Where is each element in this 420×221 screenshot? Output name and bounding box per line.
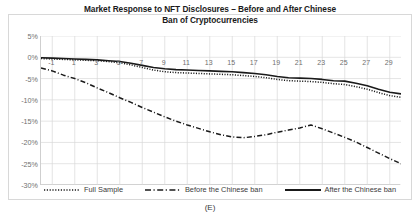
legend-label-before-ban: Before the Chinese ban: [185, 185, 263, 194]
x-tick-label: 23: [317, 59, 325, 66]
x-tick-label: 7: [139, 59, 143, 66]
x-tick-label: 19: [272, 59, 280, 66]
legend-swatch-dash-dot: [145, 186, 181, 194]
x-tick-label: 21: [295, 59, 303, 66]
x-tick-label: 27: [362, 59, 370, 66]
x-tick-label: 5: [117, 59, 121, 66]
y-tick-label: -20%: [4, 138, 38, 147]
x-tick-label: 29: [385, 59, 393, 66]
legend-label-after-ban: After the Chinese ban: [325, 185, 397, 194]
x-tick-label: 25: [340, 59, 348, 66]
legend-label-full-sample: Full Sample: [84, 185, 123, 194]
y-tick-label: -30%: [4, 181, 38, 190]
chart-title: Market Response to NFT Disclosures – Bef…: [40, 4, 380, 25]
figure-caption: (E): [0, 203, 420, 212]
x-tick-label: 11: [183, 59, 190, 66]
legend-swatch-solid: [285, 186, 321, 194]
x-tick-label: 9: [162, 59, 166, 66]
x-axis: -11357911131517192123252729: [40, 59, 400, 70]
y-tick-label: -25%: [4, 159, 38, 168]
legend-item-before-ban: Before the Chinese ban: [145, 185, 263, 194]
y-tick-label: 0%: [4, 53, 38, 62]
y-tick-label: -10%: [4, 95, 38, 104]
y-axis: 5%0%-5%-10%-15%-20%-25%-30%: [0, 36, 38, 185]
x-tick-label: -1: [48, 59, 54, 66]
x-tick-label: 17: [250, 59, 258, 66]
y-tick-label: -5%: [4, 74, 38, 83]
x-tick-label: 3: [94, 59, 98, 66]
chart-legend: Full Sample Before the Chinese ban After…: [40, 183, 400, 196]
chart-title-line-1: Market Response to NFT Disclosures – Bef…: [40, 4, 380, 15]
legend-item-after-ban: After the Chinese ban: [285, 185, 397, 194]
x-tick-label: 15: [227, 59, 235, 66]
chart-title-line-2: Ban of Cryptocurrencies: [40, 15, 380, 26]
legend-item-full-sample: Full Sample: [44, 185, 123, 194]
x-tick-label: 1: [72, 59, 76, 66]
y-tick-label: 5%: [4, 32, 38, 41]
x-tick-label: 13: [205, 59, 213, 66]
y-tick-label: -15%: [4, 117, 38, 126]
legend-swatch-dotted: [44, 186, 80, 194]
figure-container: Market Response to NFT Disclosures – Bef…: [0, 0, 420, 221]
